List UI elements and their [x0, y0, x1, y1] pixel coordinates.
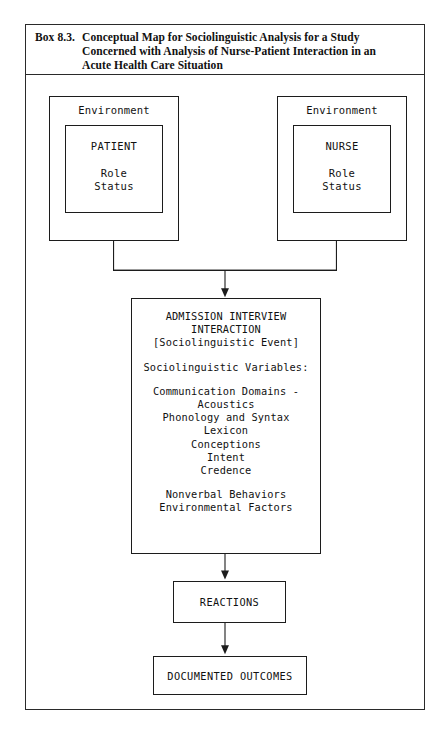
admission-interview-interaction-box: ADMISSION INTERVIEW INTERACTION [Socioli… — [131, 298, 321, 554]
patient-attribute-role: Role — [101, 167, 128, 180]
patient-attribute-status: Status — [94, 180, 134, 193]
reactions-label: REACTIONS — [200, 596, 259, 608]
variable-acoustics: Acoustics — [132, 398, 320, 411]
title-line-1: Conceptual Map for Sociolinguistic Analy… — [82, 30, 376, 44]
variable-communication-domains: Communication Domains - — [132, 385, 320, 398]
documented-outcomes-box: DOCUMENTED OUTCOMES — [153, 656, 307, 695]
nurse-attribute-status: Status — [322, 180, 362, 193]
environment-box-patient: Environment PATIENT Role Status — [49, 96, 179, 241]
main-heading-line-1: ADMISSION INTERVIEW — [132, 310, 320, 323]
environment-label-right: Environment — [278, 104, 406, 116]
box-number: Box 8.3. — [35, 30, 82, 44]
reactions-box: REACTIONS — [173, 581, 286, 623]
patient-title: PATIENT — [91, 140, 137, 152]
title-line-3: Acute Health Care Situation — [82, 58, 376, 72]
nurse-attribute-role: Role — [329, 167, 356, 180]
variable-environmental-factors: Environmental Factors — [132, 501, 320, 514]
page-title: Conceptual Map for Sociolinguistic Analy… — [82, 30, 376, 73]
nurse-box: NURSE Role Status — [293, 125, 391, 213]
variable-lexicon: Lexicon — [132, 424, 320, 437]
box-frame: Box 8.3. Conceptual Map for Sociolinguis… — [25, 24, 425, 710]
variable-conceptions: Conceptions — [132, 438, 320, 451]
variables-header: Sociolinguistic Variables: — [132, 361, 320, 374]
variable-nonverbal-behaviors: Nonverbal Behaviors — [132, 488, 320, 501]
box-title-block: Box 8.3. Conceptual Map for Sociolinguis… — [26, 25, 424, 75]
conceptual-map-diagram: Environment PATIENT Role Status Environm… — [26, 75, 424, 709]
environment-box-nurse: Environment NURSE Role Status — [277, 96, 407, 241]
sociolinguistic-event-label: [Sociolinguistic Event] — [132, 336, 320, 349]
main-heading-line-2: INTERACTION — [132, 323, 320, 336]
patient-box: PATIENT Role Status — [65, 125, 163, 213]
variable-intent: Intent — [132, 451, 320, 464]
title-line-2: Concerned with Analysis of Nurse-Patient… — [82, 44, 376, 58]
variable-phonology-and-syntax: Phonology and Syntax — [132, 411, 320, 424]
environment-label-left: Environment — [50, 104, 178, 116]
nurse-title: NURSE — [325, 140, 358, 152]
documented-outcomes-label: DOCUMENTED OUTCOMES — [167, 670, 292, 682]
variable-credence: Credence — [132, 464, 320, 477]
